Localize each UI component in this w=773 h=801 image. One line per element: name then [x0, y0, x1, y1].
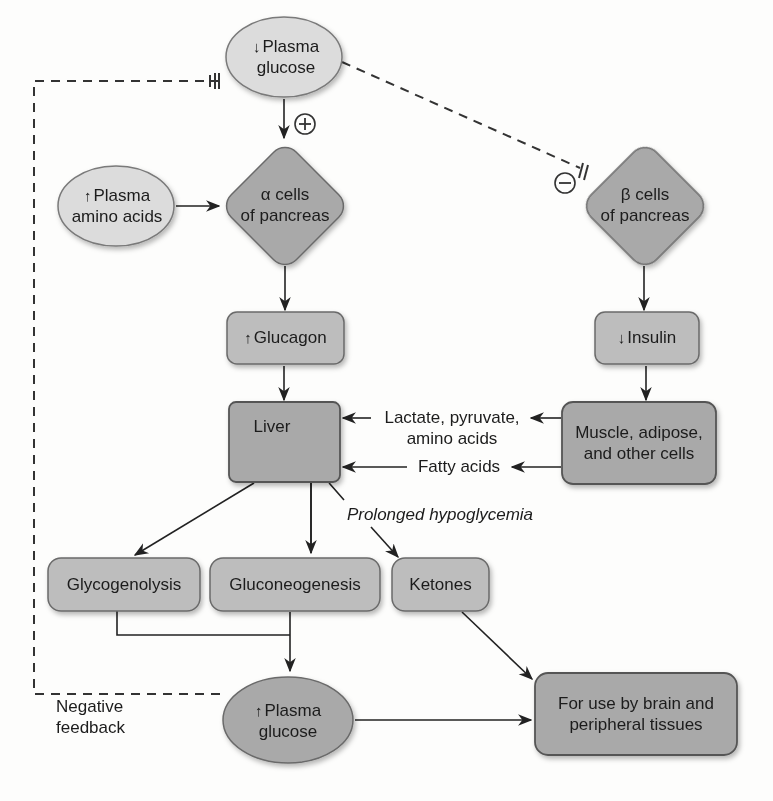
label-plasma-amino-acids: ↑Plasma amino acids [58, 185, 176, 227]
label-line: Muscle, adipose, [575, 423, 703, 442]
label-line: Negative [56, 697, 123, 716]
label-line: amino acids [407, 429, 498, 448]
label-plasma-glucose-low: ↓Plasma glucose [226, 36, 346, 78]
label-line: of pancreas [241, 206, 330, 225]
node-liver [229, 402, 340, 482]
label-line: glucose [259, 722, 318, 741]
label-line: Lactate, pyruvate, [384, 408, 519, 427]
label-line: Plasma [262, 37, 319, 56]
label-insulin: ↓Insulin [595, 327, 699, 348]
label-line: feedback [56, 716, 125, 737]
label-line: Insulin [627, 328, 676, 347]
down-arrow-icon: ↓ [618, 329, 626, 346]
label-line: Glucagon [254, 328, 327, 347]
label-line: and other cells [584, 444, 695, 463]
label-fatty-acids: Fatty acids [404, 456, 514, 477]
label-line: peripheral tissues [569, 715, 702, 734]
minus-circle-icon [555, 173, 575, 193]
label-beta-cells: β cells of pancreas [585, 184, 705, 226]
label-line: of pancreas [601, 206, 690, 225]
label-line: For use by brain and [558, 694, 714, 713]
label-line: β cells [621, 185, 670, 204]
label-muscle: Muscle, adipose, and other cells [562, 422, 716, 464]
label-ketones: Ketones [392, 574, 489, 595]
label-line: α cells [261, 185, 310, 204]
label-line: amino acids [72, 207, 163, 226]
inhibition-bar-icon [579, 163, 588, 180]
label-line: Plasma [93, 186, 150, 205]
diagram-canvas [0, 0, 773, 801]
down-arrow-icon: ↓ [253, 38, 261, 55]
label-lactate: Lactate, pyruvate, amino acids [368, 407, 536, 449]
label-prolonged-hypoglycemia: Prolonged hypoglycemia [330, 504, 550, 525]
label-glucagon: ↑Glucagon [227, 327, 344, 348]
label-negative-feedback: Negative feedback [56, 696, 176, 738]
label-line: glucose [257, 58, 316, 77]
up-arrow-icon: ↑ [255, 702, 263, 719]
label-glycogenolysis: Glycogenolysis [48, 574, 200, 595]
up-arrow-icon: ↑ [244, 329, 252, 346]
plus-circle-icon [295, 114, 315, 134]
label-gluconeogenesis: Gluconeogenesis [210, 574, 380, 595]
label-line: Plasma [264, 701, 321, 720]
dashed-inhibition-line [342, 62, 580, 168]
label-liver: Liver [236, 416, 308, 437]
label-brain-use: For use by brain and peripheral tissues [535, 693, 737, 735]
label-plasma-glucose-high: ↑Plasma glucose [228, 700, 348, 742]
label-alpha-cells: α cells of pancreas [225, 184, 345, 226]
up-arrow-icon: ↑ [84, 187, 92, 204]
